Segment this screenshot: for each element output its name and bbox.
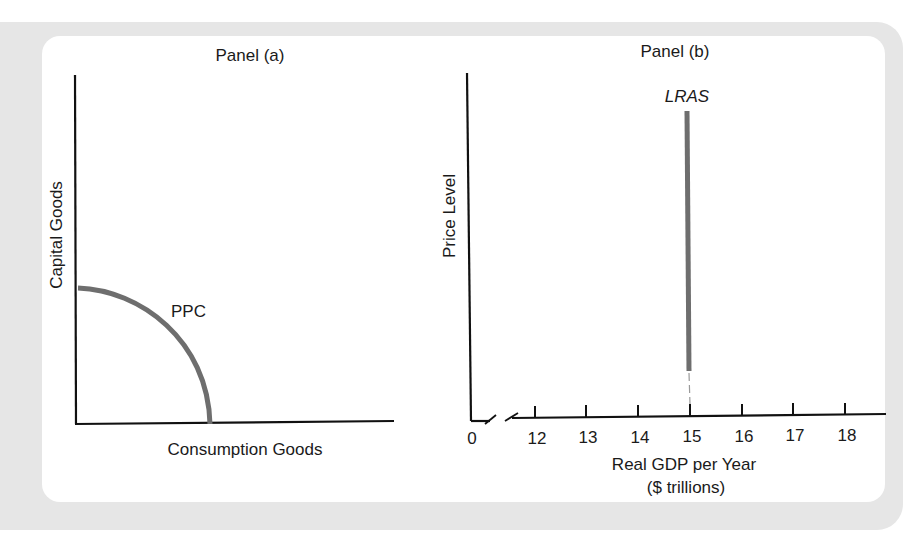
panel-b-x-label-line2: ($ trillions)	[647, 479, 725, 496]
panel-b-x-label-line1: Real GDP per Year	[612, 456, 756, 473]
tick-label-16: 16	[735, 428, 754, 445]
diagram-canvas	[0, 0, 923, 541]
lras-dashed-guide	[689, 373, 690, 404]
lras-line	[687, 111, 689, 371]
panel-a-y-label: Capital Goods	[48, 181, 65, 289]
panel-b-axes	[467, 73, 886, 424]
panel-b-y-axis	[467, 73, 471, 421]
tick-label-12: 12	[528, 430, 547, 447]
panel-b-y-label: Price Level	[441, 174, 458, 258]
tick-label-0: 0	[467, 430, 476, 447]
panel-b-x-axis	[512, 414, 886, 418]
panel-a-x-axis	[75, 421, 394, 424]
panel-a-title: Panel (a)	[216, 47, 285, 64]
panel-b-title: Panel (b)	[641, 43, 710, 60]
tick-label-13: 13	[579, 429, 598, 446]
ppc-label: PPC	[171, 303, 206, 320]
panel-a-y-axis	[75, 75, 76, 424]
panel-a-x-label: Consumption Goods	[168, 441, 323, 458]
tick-label-18: 18	[838, 427, 857, 444]
tick-label-15: 15	[683, 428, 702, 445]
tick-label-17: 17	[786, 427, 805, 444]
lras-label: LRAS	[665, 88, 709, 105]
axis-break-mark-1	[485, 415, 496, 424]
panel-a-axes	[75, 75, 394, 424]
tick-label-14: 14	[631, 429, 650, 446]
